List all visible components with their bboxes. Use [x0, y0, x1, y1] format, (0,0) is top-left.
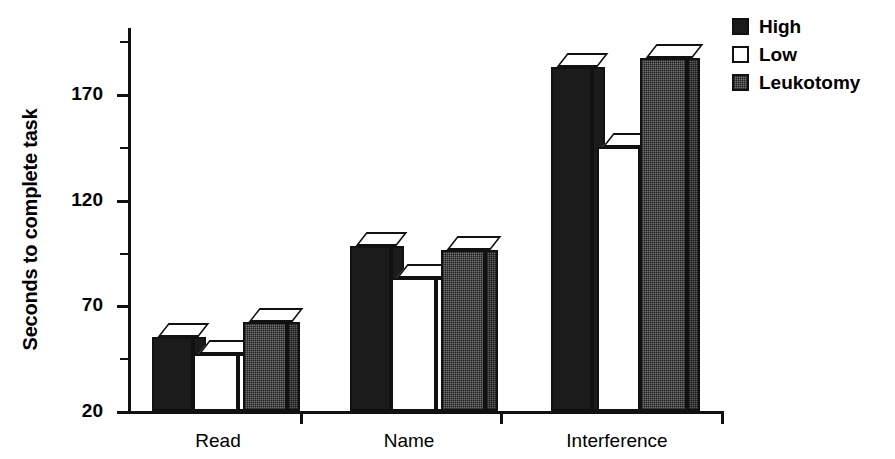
y-tick-minor-95 [120, 253, 129, 255]
bar-top-face [646, 44, 704, 58]
legend-item-leukotomy: Leukotomy [732, 70, 887, 95]
legend-label-leukotomy: Leukotomy [759, 72, 860, 94]
x-axis-label-interference: Interference [566, 430, 667, 452]
legend-label-low: Low [759, 44, 797, 66]
y-tick-minor-195 [120, 41, 129, 43]
legend-item-low: Low [732, 42, 887, 67]
y-tick-70: 70 [117, 305, 129, 308]
bar-read-leukotomy [243, 22, 287, 411]
y-axis-title: Seconds to complete task [0, 0, 60, 459]
bar-front-face [193, 354, 238, 411]
legend-label-high: High [759, 16, 801, 38]
bar-top-face [447, 236, 502, 250]
x-axis-label-name: Name [384, 430, 435, 452]
x-group-separator-1 [300, 411, 303, 424]
legend-item-high: High [732, 14, 887, 39]
bar-front-face [551, 67, 592, 411]
bar-front-face [243, 322, 287, 411]
legend-swatch-icon-leukotomy [732, 74, 749, 91]
bar-front-face [640, 58, 687, 411]
x-axis-end-tick [721, 411, 724, 424]
bar-front-face [350, 246, 391, 411]
bar-interference-low [597, 22, 640, 411]
y-axis-line [128, 28, 131, 414]
y-tick-label-120: 120 [71, 189, 103, 211]
bar-side-face [687, 58, 700, 411]
bar-name-low [391, 22, 436, 411]
bar-front-face [441, 250, 485, 411]
bar-chart: Seconds to complete task 20 70 120 170 [0, 0, 895, 459]
bar-top-face [249, 308, 304, 322]
legend-swatch-icon-low [732, 46, 749, 63]
x-group-separator-2 [500, 411, 503, 424]
bar-front-face [152, 337, 193, 411]
bar-name-high [350, 22, 391, 411]
bar-interference-leukotomy [640, 22, 687, 411]
y-tick-170: 170 [117, 94, 129, 97]
bar-side-face [287, 322, 300, 411]
bar-name-leukotomy [441, 22, 485, 411]
y-tick-label-70: 70 [82, 294, 103, 316]
legend: High Low Leukotomy [732, 14, 887, 98]
y-tick-20: 20 [117, 411, 129, 414]
y-tick-minor-45 [120, 358, 129, 360]
plot-area: 20 70 120 170 [128, 22, 724, 414]
y-tick-label-20: 20 [82, 400, 103, 422]
bar-front-face [391, 278, 436, 411]
legend-swatch-icon-high [732, 18, 749, 35]
y-tick-120: 120 [117, 200, 129, 203]
bar-interference-high [551, 22, 592, 411]
y-tick-label-170: 170 [71, 83, 103, 105]
y-tick-minor-145 [120, 147, 129, 149]
bar-read-high [152, 22, 193, 411]
bar-side-face [485, 250, 498, 411]
bar-front-face [597, 147, 640, 411]
x-axis-line [128, 411, 724, 414]
x-axis-label-read: Read [195, 430, 240, 452]
bar-read-low [193, 22, 238, 411]
